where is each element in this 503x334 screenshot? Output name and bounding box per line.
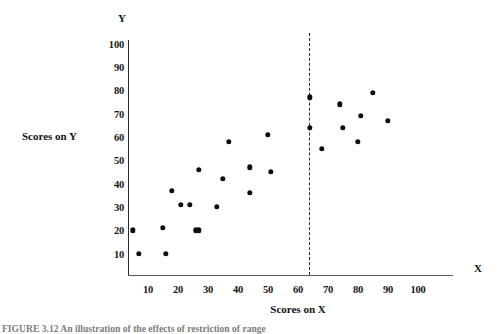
- x-tick-label: 60: [284, 284, 312, 295]
- x-tick-label: 40: [224, 284, 252, 295]
- data-point: [355, 139, 360, 144]
- figure-caption: FIGURE 3.12 An illustration of the effec…: [2, 323, 422, 334]
- x-tick-label: 80: [344, 284, 372, 295]
- y-tick-label: 20: [98, 225, 124, 236]
- y-axis-title: Scores on Y: [22, 130, 77, 142]
- data-point: [136, 251, 141, 256]
- y-tick-label: 90: [98, 62, 124, 73]
- data-point: [337, 102, 342, 107]
- x-tick-label: 30: [194, 284, 222, 295]
- data-point: [220, 176, 225, 181]
- y-tick-label: 30: [98, 202, 124, 213]
- y-tick-label: 80: [98, 85, 124, 96]
- x-tick-label: 10: [134, 284, 162, 295]
- data-point: [247, 165, 252, 170]
- data-point: [169, 188, 174, 193]
- data-point: [226, 139, 231, 144]
- y-tick-label: 70: [98, 108, 124, 119]
- data-point: [187, 202, 192, 207]
- y-axis-letter-label: Y: [118, 12, 126, 24]
- data-point: [340, 125, 345, 130]
- data-point: [319, 146, 324, 151]
- data-point: [163, 251, 168, 256]
- y-axis-line: [128, 40, 129, 276]
- data-point: [370, 90, 375, 95]
- y-tick-label: 50: [98, 155, 124, 166]
- plot-area: 102030405060708090100 102030405060708090…: [0, 0, 503, 334]
- restriction-of-range-divider: [309, 33, 310, 275]
- data-point: [130, 228, 135, 233]
- data-point: [385, 118, 390, 123]
- data-point: [160, 225, 165, 230]
- x-axis-title: Scores on X: [270, 303, 325, 315]
- data-point: [265, 132, 270, 137]
- data-point: [307, 125, 312, 130]
- x-tick-label: 70: [314, 284, 342, 295]
- y-tick-label: 40: [98, 178, 124, 189]
- data-point: [268, 169, 273, 174]
- data-point: [196, 228, 201, 233]
- y-tick-label: 60: [98, 132, 124, 143]
- x-axis-letter-label: X: [474, 262, 482, 274]
- x-tick-label: 20: [164, 284, 192, 295]
- data-point: [307, 95, 312, 100]
- data-point: [178, 202, 183, 207]
- x-tick-label: 90: [374, 284, 402, 295]
- x-tick-label: 100: [404, 284, 432, 295]
- data-point: [196, 167, 201, 172]
- x-tick-label: 50: [254, 284, 282, 295]
- y-tick-label: 100: [98, 38, 124, 49]
- data-point: [247, 190, 252, 195]
- scatter-plot-figure: 102030405060708090100 102030405060708090…: [0, 0, 503, 334]
- y-tick-label: 10: [98, 248, 124, 259]
- x-axis-line: [128, 275, 453, 276]
- data-point: [214, 204, 219, 209]
- data-point: [358, 113, 363, 118]
